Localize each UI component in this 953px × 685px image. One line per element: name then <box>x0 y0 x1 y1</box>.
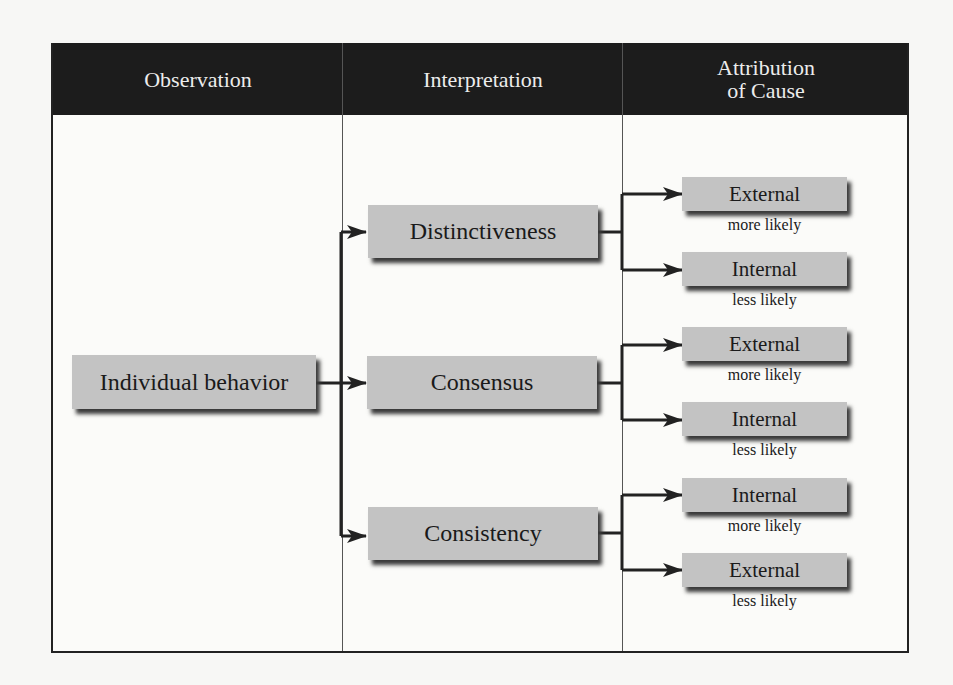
interpretation-box-consistency: Consistency <box>368 507 598 560</box>
outcome-label: Internal <box>732 257 797 282</box>
likelihood-label: more likely <box>682 517 847 535</box>
outcome-box: External <box>682 177 847 211</box>
outcome-label: Internal <box>732 483 797 508</box>
likelihood-label: less likely <box>682 291 847 309</box>
outcome-label: Internal <box>732 407 797 432</box>
interpretation-label: Consensus <box>431 369 534 396</box>
outcome-label: External <box>729 332 800 357</box>
likelihood-label: more likely <box>682 216 847 234</box>
observation-label: Individual behavior <box>100 369 289 396</box>
likelihood-label: more likely <box>682 366 847 384</box>
likelihood-label: less likely <box>682 441 847 459</box>
outcome-box: External <box>682 327 847 361</box>
outcome-box: Internal <box>682 252 847 286</box>
outcome-box: Internal <box>682 402 847 436</box>
interpretation-box-distinctiveness: Distinctiveness <box>368 205 598 258</box>
outcome-label: External <box>729 182 800 207</box>
interpretation-label: Consistency <box>424 520 541 547</box>
interpretation-label: Distinctiveness <box>410 218 557 245</box>
outcome-box: Internal <box>682 478 847 512</box>
observation-box: Individual behavior <box>72 355 316 409</box>
likelihood-label: less likely <box>682 592 847 610</box>
outcome-box: External <box>682 553 847 587</box>
outcome-label: External <box>729 558 800 583</box>
interpretation-box-consensus: Consensus <box>367 356 597 409</box>
